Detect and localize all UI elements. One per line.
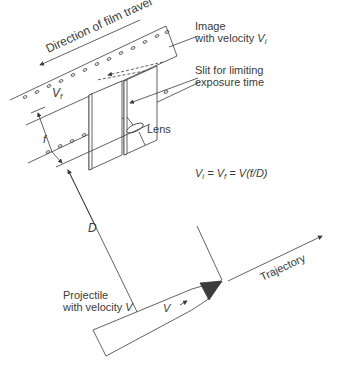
lens-label: Lens [147,123,171,135]
projectile-label: Projectile with velocity V [63,289,133,313]
projectile-inner-velocity-label: V [163,302,170,314]
image-label-line1: Image [195,20,266,32]
equation-eq2: = [226,167,239,179]
film-velocity-label: Vf [52,87,62,103]
image-leader [169,36,198,47]
image-label-text: with velocity [195,32,257,44]
image-label-line2: with velocity Vi [195,32,266,48]
image-velocity-sub: i [265,37,267,46]
slit-label: Slit for limiting exposure time [195,64,264,88]
slit-label-line1: Slit for limiting [195,64,264,76]
slit-label-line2: exposure time [195,76,264,88]
focal-length-label: f [43,133,46,145]
film-velocity-sub: f [60,92,62,101]
film-velocity-var: V [52,86,60,100]
distance-label: D [88,222,97,234]
equation-eq1: = [204,167,217,179]
projectile-velocity-var: V [125,301,132,313]
equation: Vi = Vf = V(f/D) [195,167,268,183]
slit-plate-right [124,66,157,155]
projectile-label-text: with velocity [63,301,125,313]
equation-vf: V [217,167,224,179]
nose-axis [197,226,222,280]
slit-plate-left [89,81,122,170]
projectile-label-line1: Projectile [63,289,133,301]
equation-rhs: V(f/D) [239,167,268,179]
image-velocity-var: V [257,32,264,44]
projectile-label-line2: with velocity V [63,301,133,313]
image-label: Image with velocity Vi [195,20,266,48]
streak-camera-diagram [0,0,339,374]
